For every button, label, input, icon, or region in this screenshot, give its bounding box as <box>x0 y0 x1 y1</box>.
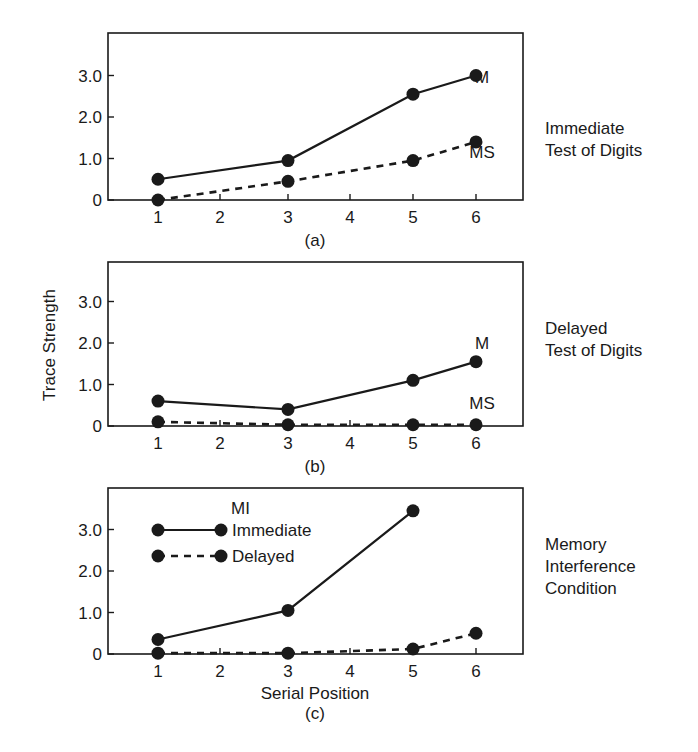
y-tick-label: 0 <box>93 417 102 436</box>
x-axis-title: Serial Position <box>261 684 370 703</box>
legend: MIImmediateDelayed <box>152 499 312 566</box>
data-point <box>407 504 420 517</box>
data-point <box>152 173 165 186</box>
chart-panel-b: 01.02.03.0123456(b)MMS <box>78 262 523 476</box>
x-tick-label: 6 <box>471 434 480 453</box>
legend-immediate-label: Immediate <box>232 521 311 540</box>
x-tick-label: 3 <box>283 434 292 453</box>
data-point <box>282 403 295 416</box>
x-tick-label: 3 <box>283 662 292 681</box>
series-tag-m: M <box>475 68 489 87</box>
chart-panel-a: 01.02.03.0123456(a)MMS <box>78 33 523 250</box>
data-point <box>282 154 295 167</box>
x-tick-label: 6 <box>471 662 480 681</box>
x-tick-label: 4 <box>345 662 354 681</box>
y-tick-label: 1.0 <box>78 376 102 395</box>
series-line-m <box>158 76 476 180</box>
data-point <box>152 415 165 428</box>
series-tag-ms: MS <box>469 394 495 413</box>
data-point <box>282 647 295 660</box>
data-point <box>470 418 483 431</box>
y-tick-label: 2.0 <box>78 334 102 353</box>
data-point <box>152 395 165 408</box>
series-line-ms <box>158 142 476 200</box>
data-point <box>152 647 165 660</box>
legend-title: MI <box>231 499 250 518</box>
data-point <box>470 627 483 640</box>
data-point <box>282 418 295 431</box>
chart-panel-c: 01.02.03.0123456(c)MIImmediateDelayedSer… <box>78 488 523 723</box>
legend-delayed-label: Delayed <box>232 547 294 566</box>
x-tick-label: 5 <box>408 434 417 453</box>
y-tick-label: 3.0 <box>78 293 102 312</box>
y-axis-title: Trace Strength <box>40 289 59 401</box>
x-tick-label: 2 <box>215 208 224 227</box>
data-point <box>407 88 420 101</box>
series-line-ms <box>158 422 476 425</box>
panel-b-title: Delayed Test of Digits <box>545 318 642 362</box>
data-point <box>152 633 165 646</box>
y-tick-label: 0 <box>93 645 102 664</box>
y-tick-label: 2.0 <box>78 108 102 127</box>
series-tag-ms: MS <box>469 143 495 162</box>
legend-marker <box>215 524 228 537</box>
y-tick-label: 3.0 <box>78 521 102 540</box>
data-point <box>407 154 420 167</box>
x-tick-label: 4 <box>345 434 354 453</box>
x-tick-label: 1 <box>153 208 162 227</box>
series-line-delayed <box>158 633 476 653</box>
panel-c-title: Memory Interference Condition <box>545 534 636 600</box>
y-tick-label: 1.0 <box>78 150 102 169</box>
series-tag-m: M <box>475 334 489 353</box>
y-tick-label: 1.0 <box>78 604 102 623</box>
data-point <box>407 374 420 387</box>
panel-caption: (c) <box>305 704 325 723</box>
plot-frame <box>108 33 523 200</box>
y-tick-label: 3.0 <box>78 67 102 86</box>
y-tick-label: 0 <box>93 191 102 210</box>
series-line-m <box>158 362 476 410</box>
chart-figure: 01.02.03.0123456(a)MMS01.02.03.0123456(b… <box>0 0 698 752</box>
x-tick-label: 5 <box>408 662 417 681</box>
x-tick-label: 6 <box>471 208 480 227</box>
panel-caption: (b) <box>305 457 326 476</box>
data-point <box>407 643 420 656</box>
x-tick-label: 4 <box>345 208 354 227</box>
legend-marker <box>215 550 228 563</box>
x-tick-label: 2 <box>215 662 224 681</box>
plot-frame <box>108 488 523 654</box>
data-point <box>407 418 420 431</box>
panel-caption: (a) <box>305 231 326 250</box>
x-tick-label: 1 <box>153 662 162 681</box>
x-tick-label: 2 <box>215 434 224 453</box>
x-tick-label: 3 <box>283 208 292 227</box>
x-tick-label: 1 <box>153 434 162 453</box>
data-point <box>470 355 483 368</box>
panel-a-title: Immediate Test of Digits <box>545 118 642 162</box>
data-point <box>282 604 295 617</box>
data-point <box>152 194 165 207</box>
y-tick-label: 2.0 <box>78 562 102 581</box>
legend-marker <box>152 550 165 563</box>
legend-marker <box>152 524 165 537</box>
x-tick-label: 5 <box>408 208 417 227</box>
data-point <box>282 175 295 188</box>
